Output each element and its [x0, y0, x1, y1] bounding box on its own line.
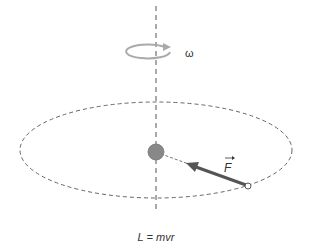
force-vector-label: F: [224, 156, 235, 175]
orbiting-particle: [245, 183, 251, 189]
equation-label: L = mvr: [138, 231, 176, 243]
omega-label: ω: [185, 47, 194, 59]
central-mass: [148, 144, 164, 160]
force-arrow: [186, 162, 246, 185]
rotation-arrow-icon: [126, 43, 171, 58]
force-label: F: [224, 161, 232, 175]
angular-momentum-diagram: ω F L = mvr: [0, 0, 311, 252]
